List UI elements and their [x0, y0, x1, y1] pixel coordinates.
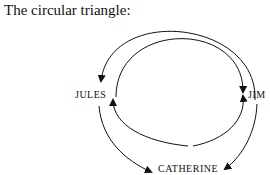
node-jim: JIM [248, 89, 266, 100]
node-jules: JULES [75, 89, 106, 100]
arrow-catherine-to-jules [113, 100, 188, 146]
arrow-jim-to-jules [101, 31, 255, 100]
arrow-jules-to-catherine [99, 106, 151, 172]
arrow-jules-to-jim [116, 39, 243, 97]
circular-triangle-diagram [0, 0, 270, 175]
arrow-catherine-to-jim [193, 96, 243, 146]
node-catherine: CATHERINE [158, 163, 218, 174]
